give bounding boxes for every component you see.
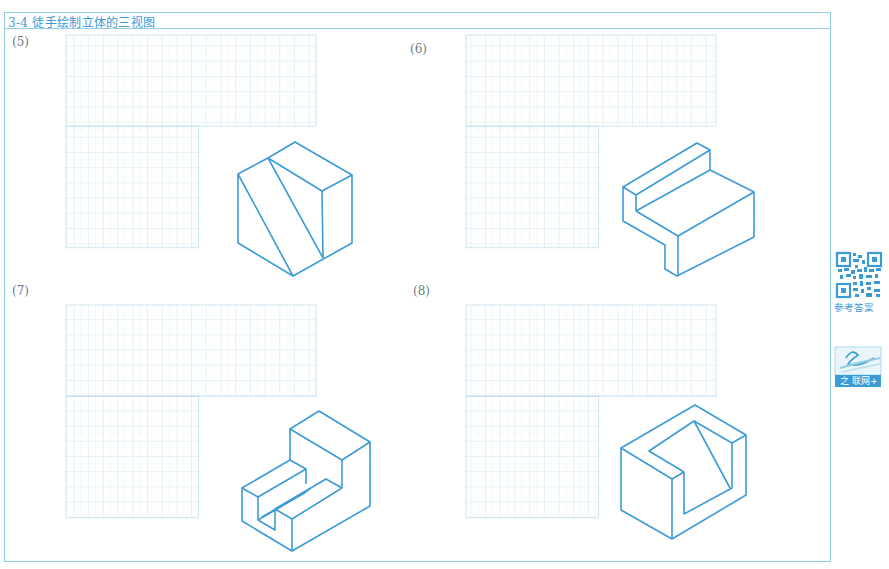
- drawing-canvas: [0, 0, 889, 569]
- isometric-figure-8: [621, 405, 746, 539]
- qr-code-icon[interactable]: [836, 252, 882, 298]
- sketch-grid-5[interactable]: [66, 35, 316, 248]
- isometric-figure-7: [242, 411, 370, 551]
- sketch-grid-8[interactable]: [466, 305, 716, 518]
- sketch-grid-6[interactable]: [466, 35, 716, 248]
- isometric-figure-5: [238, 142, 352, 276]
- isometric-figure-6: [623, 143, 754, 276]
- qr-caption: 参考答案: [834, 300, 874, 314]
- logo-text: 之 联网+: [836, 375, 882, 387]
